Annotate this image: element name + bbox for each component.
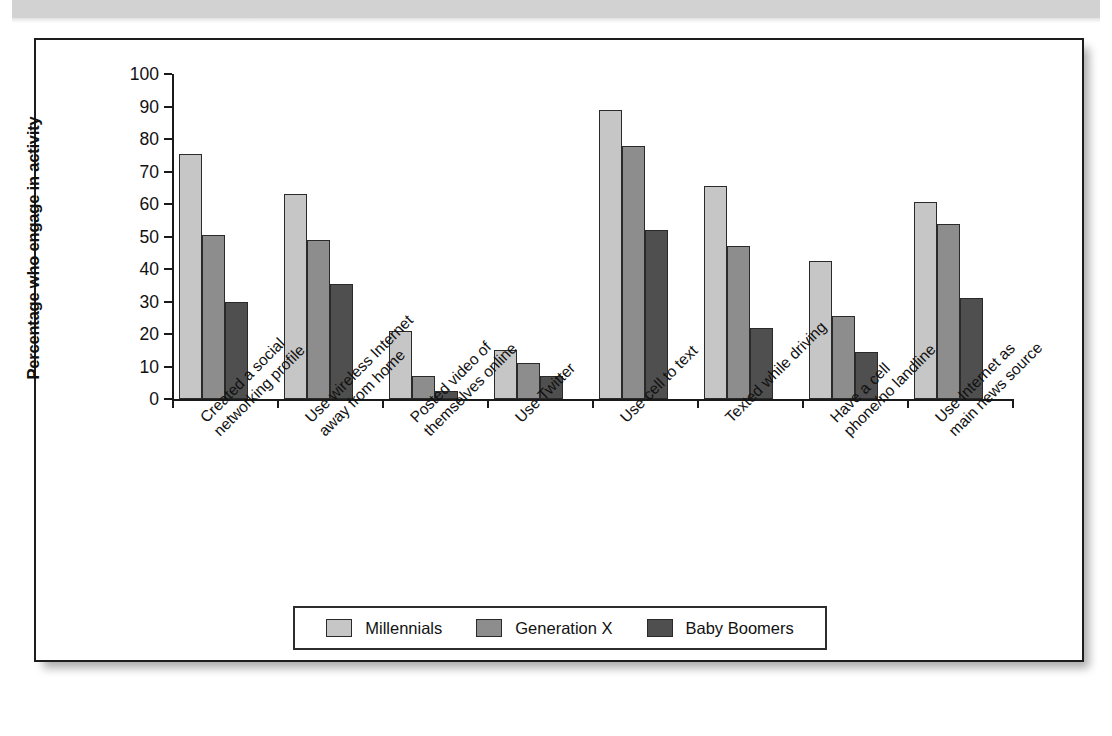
x-axis-category-labels: Created a socialnetworking profileUse wi… <box>172 405 1052 580</box>
scan-header-shadow <box>12 18 1100 23</box>
y-tick <box>164 398 172 400</box>
y-tick-label: 10 <box>140 356 159 377</box>
legend-label: Millennials <box>365 619 442 638</box>
y-tick <box>164 236 172 238</box>
chart-frame: Percentage who engage in activity 010203… <box>34 38 1084 662</box>
y-tick-label: 70 <box>140 161 159 182</box>
y-tick-label: 40 <box>140 259 159 280</box>
legend-swatch-icon <box>647 619 673 637</box>
y-axis-title: Percentage who engage in activity <box>24 98 48 398</box>
y-tick <box>164 333 172 335</box>
y-tick <box>164 73 172 75</box>
y-tick <box>164 203 172 205</box>
y-tick <box>164 366 172 368</box>
y-tick-label: 0 <box>149 389 159 410</box>
figure-page: Percentage who engage in activity 010203… <box>0 0 1112 736</box>
bar <box>622 146 645 400</box>
y-tick <box>164 106 172 108</box>
y-tick-label: 60 <box>140 194 159 215</box>
bar <box>704 186 727 399</box>
y-tick <box>164 301 172 303</box>
bar <box>937 224 960 400</box>
bar <box>599 110 622 399</box>
legend-item[interactable]: Baby Boomers <box>647 619 794 638</box>
y-tick-label: 30 <box>140 291 159 312</box>
legend-swatch-icon <box>326 619 352 637</box>
y-tick-label: 90 <box>140 96 159 117</box>
y-tick-label: 20 <box>140 324 159 345</box>
bar <box>179 154 202 399</box>
bar <box>727 246 750 399</box>
y-tick <box>164 171 172 173</box>
y-tick-label: 100 <box>130 64 159 85</box>
legend-item[interactable]: Millennials <box>326 619 442 638</box>
y-tick <box>164 138 172 140</box>
bar <box>202 235 225 399</box>
y-tick <box>164 268 172 270</box>
legend-swatch-icon <box>476 619 502 637</box>
scan-header-band <box>12 0 1100 18</box>
legend-item[interactable]: Generation X <box>476 619 612 638</box>
bar <box>307 240 330 399</box>
y-tick-label: 80 <box>140 129 159 150</box>
legend-label: Baby Boomers <box>686 619 794 638</box>
y-tick-label: 50 <box>140 226 159 247</box>
chart-legend: MillennialsGeneration XBaby Boomers <box>293 606 827 650</box>
legend-label: Generation X <box>515 619 612 638</box>
